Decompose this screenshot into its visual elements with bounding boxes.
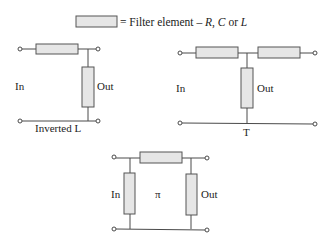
input-terminal-bottom (178, 121, 182, 125)
series-element-left (196, 47, 238, 58)
output-terminal-bottom (205, 228, 209, 232)
input-terminal-bottom (112, 227, 116, 231)
input-terminal-bottom (18, 119, 22, 123)
shunt-element (241, 68, 253, 108)
series-element (140, 152, 182, 163)
in-label: In (111, 188, 121, 200)
in-label: In (176, 82, 186, 94)
output-terminal-bottom (96, 119, 100, 123)
filter-topologies-diagram: = Filter element – R, C or L In Out Inve… (0, 0, 336, 241)
series-element-right (258, 47, 300, 58)
output-terminal-top (96, 47, 100, 51)
input-terminal-top (178, 51, 182, 55)
input-terminal-top (18, 47, 22, 51)
shunt-element-left (124, 173, 135, 214)
in-label: In (15, 80, 25, 92)
series-element (36, 44, 78, 54)
output-terminal-top (313, 51, 317, 55)
legend-filter-element (76, 16, 117, 27)
output-terminal-top (205, 156, 209, 160)
out-label: Out (201, 188, 218, 200)
circuit-name-label: π (155, 188, 161, 200)
legend: = Filter element – R, C or L (76, 16, 247, 29)
out-label: Out (97, 80, 114, 92)
shunt-element (82, 67, 94, 107)
circuit-name-label: Inverted L (35, 122, 81, 134)
t-circuit: In Out T (176, 47, 317, 138)
output-terminal-bottom (313, 122, 317, 126)
legend-text: = Filter element – R, C or L (120, 16, 247, 29)
circuit-name-label: T (243, 126, 250, 138)
pi-circuit: In π Out (111, 152, 218, 232)
out-label: Out (257, 82, 274, 94)
inverted-l-circuit: In Out Inverted L (15, 44, 114, 134)
input-terminal-top (112, 155, 116, 159)
shunt-element-right (186, 174, 197, 215)
